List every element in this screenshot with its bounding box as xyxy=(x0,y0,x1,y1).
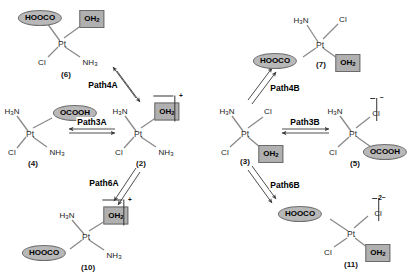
charge-bracket-top-s11 xyxy=(372,198,377,199)
ligand-cl-bottom-s5: Cl xyxy=(329,148,337,157)
charge-bracket-right-s10 xyxy=(124,200,125,226)
structure-label-7: (7) xyxy=(316,60,326,69)
ligand-oh2-s3: OH2 xyxy=(258,145,283,163)
charge-symbol-s2: + xyxy=(179,92,183,99)
ligand-oh2-s7-text: OH xyxy=(340,58,352,67)
path-label-path3b[interactable]: Path3B xyxy=(289,117,320,127)
charge-symbol-s10: + xyxy=(128,196,132,203)
metal-center-s2: Pt xyxy=(134,129,142,139)
ligand-oh2-s6: OH2 xyxy=(79,10,104,28)
structure-label-2: (2) xyxy=(136,159,146,168)
ligand-oh2-s10: OH2 xyxy=(103,207,128,225)
ligand-h3n-s10: H3N xyxy=(59,211,74,220)
structure-label-6: (6) xyxy=(61,70,71,79)
metal-center-s6: Pt xyxy=(58,39,66,49)
structure-label-11: (11) xyxy=(344,260,358,269)
charge-bracket-right-s11 xyxy=(378,198,379,221)
path-label-path6a[interactable]: Path6A xyxy=(88,178,119,188)
ligand-oh2-s7-sub: 2 xyxy=(352,61,355,67)
ligand-oh2-s6-sub: 2 xyxy=(96,17,99,23)
ligand-oh2-s11: OH2 xyxy=(365,244,390,262)
charge-symbol-s11: 2− xyxy=(378,194,385,201)
path3b-arrow xyxy=(282,129,329,133)
path-label-path6b[interactable]: Path6B xyxy=(269,180,300,190)
ligand-nh3-s10-text: NH xyxy=(106,251,118,260)
charge-bracket-right-s2 xyxy=(175,96,176,122)
metal-center-s11: Pt xyxy=(347,229,355,239)
ligand-cl-s6: Cl xyxy=(38,58,46,67)
ligand-h3n-s7-text2: N xyxy=(303,16,309,25)
ligand-oh2-s6-text: OH xyxy=(84,14,96,23)
ligand-h3n-s2-text2: N xyxy=(122,107,128,116)
path-label-path4b[interactable]: Path4B xyxy=(269,83,300,93)
ligand-oh2-s11-sub: 2 xyxy=(382,251,385,257)
ligand-oh2-s7: OH2 xyxy=(335,54,360,72)
ligand-h3n-s2: H3N xyxy=(112,107,127,116)
ligand-nh3-s10-sub: 3 xyxy=(118,254,121,260)
ligand-h3n-s5-text2: N xyxy=(337,107,343,116)
path-label-path4a[interactable]: Path4A xyxy=(87,80,118,90)
bonds-structure-4 xyxy=(17,116,52,148)
ligand-nh3-s6-sub: 3 xyxy=(94,61,97,67)
reaction-scheme: HOOCO OH2 Pt Cl NH3 (6) H3N OCOOH Pt Cl … xyxy=(0,0,410,275)
metal-center-s10: Pt xyxy=(82,232,90,242)
ligand-nh3-s10: NH3 xyxy=(106,251,121,260)
charge-bracket-right-s5 xyxy=(376,98,377,121)
structure-label-3: (3) xyxy=(240,157,250,166)
ligand-h3n-s7: H3N xyxy=(293,16,308,25)
ligand-oh2-charged-s2: OH2 + xyxy=(154,100,179,121)
ligand-hoocо-s10: HOOCO xyxy=(22,245,66,261)
ligand-cl-bottom-s3: Cl xyxy=(221,148,229,157)
ligand-oh2-s10-text: OH xyxy=(108,211,120,220)
charge-bracket-top-s5 xyxy=(370,98,375,99)
structure-label-5: (5) xyxy=(350,159,360,168)
charge-bracket-top-s2 xyxy=(153,96,173,97)
charge-symbol-s5: − xyxy=(380,94,384,101)
ligand-cl-charged-s5: Cl − xyxy=(371,102,381,120)
ligand-oh2-s11-text: OH xyxy=(370,248,382,257)
structure-label-4: (4) xyxy=(28,159,38,168)
ligand-cl-s2: Cl xyxy=(115,148,123,157)
path-label-path3a[interactable]: Path3A xyxy=(76,117,107,127)
ligand-h3n-s4: H3N xyxy=(4,107,19,116)
ligand-nh3-s2-sub: 3 xyxy=(170,151,173,157)
ligand-nh3-s6: NH3 xyxy=(82,58,97,67)
ligand-h3n-s10-text2: N xyxy=(69,211,75,220)
ligand-oh2-charged-s10: OH2 + xyxy=(103,204,128,225)
ligand-cl-s7: Cl xyxy=(339,15,347,24)
ligand-hoocо-s11: HOOCO xyxy=(278,206,322,222)
metal-center-s3: Pt xyxy=(241,129,249,139)
ligand-oh2-s2: OH2 xyxy=(154,103,179,121)
ligand-hoocо-s7: HOOCO xyxy=(253,53,297,69)
metal-center-s5: Pt xyxy=(349,129,357,139)
ligand-nh3-s2: NH3 xyxy=(158,148,173,157)
ligand-nh3-s4-sub: 3 xyxy=(61,151,64,157)
ligand-h3n-s3-text2: N xyxy=(229,107,235,116)
ligand-ocooh-s5: OCOOH xyxy=(363,144,407,160)
path3a-arrow xyxy=(69,129,115,133)
ligand-nh3-s4-text: NH xyxy=(49,148,61,157)
ligand-nh3-s6-text: NH xyxy=(82,58,94,67)
ligand-cl-charged-s11: Cl 2− xyxy=(373,202,383,220)
ligand-h3n-s4-text2: N xyxy=(14,107,20,116)
ligand-nh3-s2-text: NH xyxy=(158,148,170,157)
metal-center-s7: Pt xyxy=(316,40,324,50)
ligand-cl-bottom-s11: Cl xyxy=(324,248,332,257)
ligand-hoocо-s6: HOOCO xyxy=(18,10,62,26)
ligand-cl-s4: Cl xyxy=(8,148,16,157)
metal-center-s4: Pt xyxy=(26,129,34,139)
ligand-oh2-s2-text: OH xyxy=(159,107,171,116)
charge-bracket-top-s10 xyxy=(102,200,122,201)
ligand-nh3-s4: NH3 xyxy=(49,148,64,157)
structure-label-10: (10) xyxy=(81,263,95,272)
ligand-oh2-s3-sub: 2 xyxy=(275,152,278,158)
ligand-cl-top-s3: Cl xyxy=(264,107,272,116)
ligand-h3n-s5: H3N xyxy=(327,107,342,116)
ligand-h3n-s3: H3N xyxy=(219,107,234,116)
ligand-oh2-s3-text: OH xyxy=(263,149,275,158)
